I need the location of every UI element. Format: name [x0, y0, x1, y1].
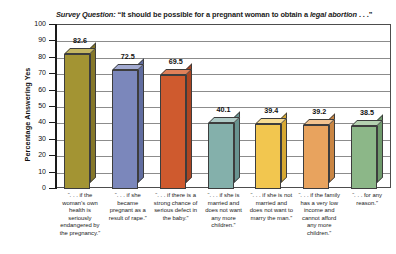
y-axis-tick-label: 30 — [24, 135, 46, 142]
bar-side-face — [281, 113, 287, 183]
bar-value-label: 40.1 — [201, 105, 247, 114]
chart-title-lead: Survey Question: — [56, 10, 116, 19]
y-axis-tick-label: 90 — [24, 36, 46, 43]
y-axis-tick-label: 60 — [24, 86, 46, 93]
bar-value-label: 39.2 — [296, 107, 342, 116]
x-axis-category-label: “. . . if the woman’s own health is seri… — [58, 192, 102, 238]
y-axis-tick-mark — [49, 155, 56, 156]
y-axis-tick-label: 20 — [24, 151, 46, 158]
x-axis-category-label: “. . . if she became pregnant as a resul… — [106, 192, 150, 222]
chart-title: Survey Question: “It should be possible … — [56, 8, 392, 22]
x-axis-category-label: “. . . if she is married and does not wa… — [202, 192, 246, 230]
y-axis-tick-label: 40 — [24, 118, 46, 125]
y-axis-tick-label: 50 — [24, 102, 46, 109]
bar-front-face — [64, 54, 90, 189]
chart-title-emphasis: legal abortion — [310, 10, 357, 19]
x-axis-category-label: “. . . if there is a strong chance of se… — [154, 192, 198, 222]
y-axis-tick-label: 10 — [24, 168, 46, 175]
bar-side-face — [90, 42, 96, 183]
y-axis-tick-label: 80 — [24, 53, 46, 60]
y-axis-tick-mark — [49, 139, 56, 140]
x-axis-category-label: “. . . if she is not married and does no… — [249, 192, 293, 222]
bar[interactable] — [64, 48, 90, 189]
y-axis-tick-mark — [49, 90, 56, 91]
bar-value-label: 82.6 — [57, 36, 103, 45]
bar-front-face — [351, 126, 377, 189]
bar-value-label: 38.5 — [344, 108, 390, 117]
bar-front-face — [303, 125, 329, 189]
y-axis-tick-mark — [49, 172, 56, 173]
x-axis-category-label: “. . . for any reason.” — [345, 192, 389, 207]
bar-front-face — [160, 75, 186, 189]
y-axis-tick-label: 0 — [24, 184, 46, 191]
y-axis-tick-mark — [49, 73, 56, 74]
bar-value-label: 72.5 — [105, 52, 151, 61]
y-axis-ticks: 1009080706050403020100 — [22, 0, 46, 254]
y-axis-tick-label: 100 — [24, 20, 46, 27]
bar[interactable] — [112, 64, 138, 189]
chart-title-quote-open: “It should be possible for a pregnant wo… — [116, 10, 310, 19]
chart-title-quote-close: . . .” — [357, 10, 372, 19]
bar-front-face — [208, 123, 234, 189]
y-axis-tick-mark — [49, 57, 56, 58]
bar[interactable] — [303, 119, 329, 189]
bar-front-face — [112, 70, 138, 189]
bar[interactable] — [351, 120, 377, 189]
y-axis-tick-mark — [49, 106, 56, 107]
bar-side-face — [138, 58, 144, 183]
bar-side-face — [186, 63, 192, 183]
bar[interactable] — [208, 117, 234, 189]
x-axis-category-labels: “. . . if the woman’s own health is seri… — [56, 192, 391, 254]
bar-value-label: 39.4 — [248, 106, 294, 115]
y-axis-tick-label: 70 — [24, 69, 46, 76]
bar[interactable] — [255, 118, 281, 189]
bar-front-face — [255, 124, 281, 189]
x-axis-category-label: “. . . if the family has a very low inco… — [297, 192, 341, 238]
bar-value-label: 69.5 — [153, 57, 199, 66]
y-axis-tick-mark — [49, 122, 56, 123]
y-axis-tick-mark — [49, 188, 56, 189]
y-axis-tick-mark — [49, 40, 56, 41]
y-axis-tick-mark — [49, 24, 56, 25]
bar-chart-figure: Survey Question: “It should be possible … — [0, 0, 396, 254]
bar[interactable] — [160, 69, 186, 189]
bars-layer: 82.672.569.540.139.439.238.5 — [56, 24, 391, 189]
